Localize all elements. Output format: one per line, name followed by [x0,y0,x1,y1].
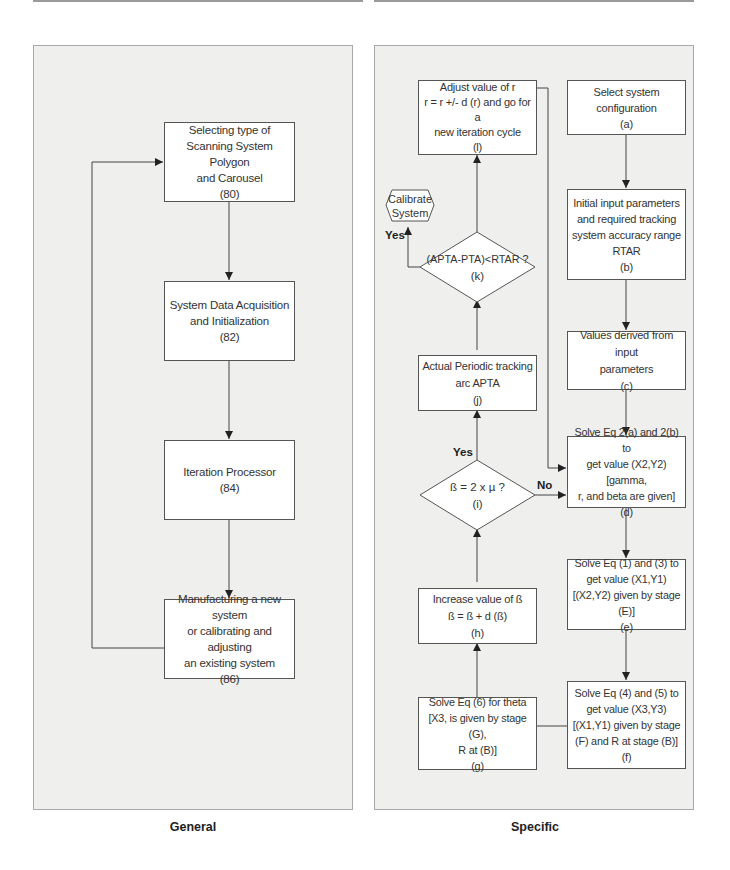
box-text: [(X1,Y1) given by stage [573,717,681,733]
step-e-solve-eq1-3: Solve Eq (1) and (3) to get value (X1,Y1… [567,559,686,630]
terminal-text: System [386,206,434,220]
step-82-data-acquisition: System Data Acquisition and Initializati… [164,281,295,361]
box-text: (84) [220,480,240,496]
top-rule-left [33,0,363,2]
box-text: get value (X1,Y1) [586,571,666,587]
box-text: (d) [620,504,633,520]
decision-text: (APTA-PTA)<RTAR ? [420,251,535,268]
box-text: RTAR [612,243,640,259]
top-rule-right [374,0,694,2]
terminal-text: Calibrate [386,192,434,206]
box-text: [X3, is given by stage (G), [422,710,533,742]
box-text: Increase value of ß [433,591,523,608]
box-text: System Data Acquisition [170,297,289,313]
box-text: parameters [600,361,654,378]
step-c-derived-values: Values derived from input parameters (c) [567,331,686,390]
box-text: new iteration cycle [434,125,521,140]
box-text: get value (X3,Y3) [586,701,666,717]
box-text: ß = ß + d (ß) [448,608,507,625]
box-text: Solve Eq (6) for theta [429,694,527,710]
step-j-apta: Actual Periodic tracking arc APTA (j) [418,355,537,411]
step-b-initial-parameters: Initial input parameters and required tr… [567,189,686,280]
box-text: Selecting type of [189,122,271,138]
box-text: R at (B)] [458,742,496,758]
decision-k-text: (APTA-PTA)<RTAR ? (k) [420,251,535,285]
box-text: (a) [620,116,633,132]
calibrate-system-terminal: Calibrate System [386,192,434,220]
box-text: (l) [473,140,482,155]
box-text: (c) [620,378,632,395]
yes-label-k: Yes [385,229,405,241]
box-text: configuration [596,100,656,116]
box-text: (F) and R at stage (B)] [575,733,678,749]
step-h-increase-beta: Increase value of ß ß = ß + d (ß) (h) [418,588,537,644]
step-86-manufacturing: Manufacturing a new system or calibratin… [164,599,295,679]
step-a-select-configuration: Select system configuration (a) [567,80,686,135]
box-text: Select system [594,84,660,100]
step-g-solve-eq6: Solve Eq (6) for theta [X3, is given by … [418,697,537,770]
decision-text: ß = 2 x µ ? [420,479,535,496]
box-text: (g) [471,758,484,774]
box-text: Solve Eq (4) and (5) to [574,685,678,701]
box-text: system accuracy range [572,227,681,243]
step-d-solve-eq2: Solve Eq 2(a) and 2(b) to get value (X2,… [567,436,686,508]
box-text: arc APTA [455,375,499,392]
decision-i-text: ß = 2 x µ ? (i) [420,479,535,513]
box-text: Adjust value of r [440,80,515,95]
box-text: Values derived from input [571,327,682,361]
box-text: (e) [620,619,633,635]
decision-text: (i) [420,496,535,513]
no-label-i: No [537,479,552,491]
yes-label-i: Yes [453,446,473,458]
box-text: or calibrating and adjusting [168,623,291,655]
box-text: (80) [220,186,240,202]
box-text: Iteration Processor [183,464,276,480]
step-80-select-scanning-system: Selecting type of Scanning System Polygo… [164,122,295,202]
box-text: r = r +/- d (r) and go for a [422,95,533,125]
box-text: Solve Eq 2(a) and 2(b) to [571,424,682,456]
box-text: (82) [220,329,240,345]
step-84-iteration-processor: Iteration Processor (84) [164,440,295,520]
box-text: Scanning System Polygon [168,138,291,170]
box-text: r, and beta are given] [578,488,675,504]
box-text: and Initialization [190,313,269,329]
box-text: Actual Periodic tracking [422,358,532,375]
box-text: and required tracking [577,211,676,227]
box-text: (j) [473,392,482,409]
box-text: Initial input parameters [573,195,679,211]
box-text: (b) [620,259,633,275]
box-text: Manufacturing a new system [168,591,291,623]
box-text: and Carousel [196,170,262,186]
caption-general: General [113,820,273,834]
box-text: (f) [622,749,632,765]
step-l-adjust-r: Adjust value of r r = r +/- d (r) and go… [418,80,537,155]
caption-specific: Specific [455,820,615,834]
box-text: get value (X2,Y2) [gamma, [571,456,682,488]
box-text: Solve Eq (1) and (3) to [574,555,678,571]
box-text: an existing system [184,655,275,671]
box-text: (86) [220,671,240,687]
decision-text: (k) [420,268,535,285]
step-f-solve-eq4-5: Solve Eq (4) and (5) to get value (X3,Y3… [567,681,686,769]
box-text: [(X2,Y2) given by stage (E)] [571,587,682,619]
box-text: (h) [471,625,484,642]
